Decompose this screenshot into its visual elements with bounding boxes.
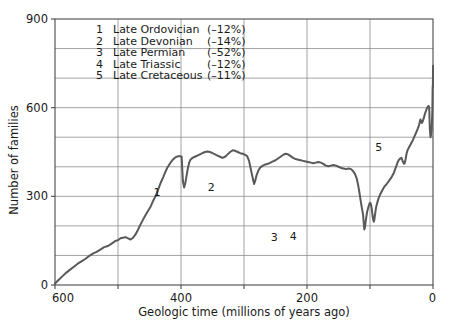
x-tick-label-600: 600 — [52, 291, 74, 305]
y-tick-label-600: 600 — [26, 101, 48, 115]
y-tick-label-300: 300 — [26, 189, 48, 203]
y-tick-label-900: 900 — [26, 12, 48, 26]
legend-number-5: 5 — [96, 69, 103, 82]
chart-figure: 0300600900 6004002000 12345 1Late Ordovi… — [0, 0, 454, 323]
event-marker-2: 2 — [208, 181, 215, 194]
legend-name-5: Late Cretaceous — [113, 69, 203, 82]
event-marker-4: 4 — [290, 230, 297, 243]
event-marker-1: 1 — [154, 186, 161, 199]
y-axis-title: Number of families — [7, 105, 21, 215]
x-tick-label-0: 0 — [429, 291, 436, 305]
x-tick-label-400: 400 — [170, 291, 192, 305]
extinction-events-line-chart: 0300600900 6004002000 12345 1Late Ordovi… — [0, 0, 454, 323]
legend: 1Late Ordovician(–12%)2Late Devonian(–14… — [96, 23, 246, 82]
legend-percent-5: (–11%) — [207, 69, 246, 82]
event-marker-3: 3 — [271, 231, 278, 244]
event-marker-5: 5 — [375, 141, 382, 154]
x-tick-label-200: 200 — [296, 291, 318, 305]
y-tick-label-0: 0 — [41, 278, 48, 292]
x-axis-title: Geologic time (millions of years ago) — [138, 305, 350, 319]
